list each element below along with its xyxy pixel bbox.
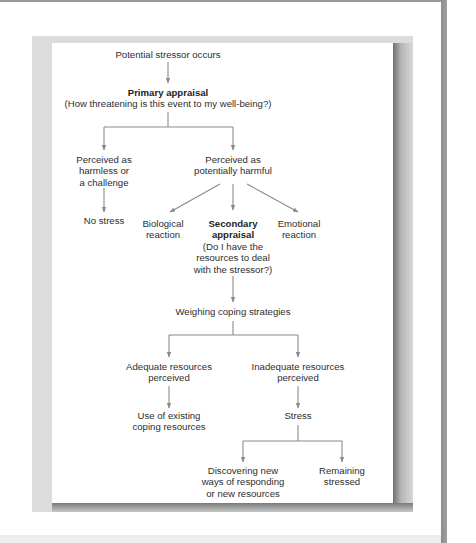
node-text: potentially harmful bbox=[178, 165, 288, 176]
node-text: a challenge bbox=[64, 177, 144, 188]
node-text: Weighing coping strategies bbox=[163, 306, 303, 317]
node-text: (Do I have the bbox=[183, 241, 283, 252]
node-text: perceived bbox=[238, 372, 358, 383]
node-text: coping resources bbox=[119, 421, 219, 432]
node-discovering-new-ways: Discovering new ways of responding or ne… bbox=[188, 465, 298, 499]
node-remaining-stressed: Remaining stressed bbox=[307, 465, 377, 488]
node-primary-appraisal: Primary appraisal (How threatening is th… bbox=[48, 87, 288, 110]
node-title-text: Secondary bbox=[208, 218, 257, 229]
node-text: perceived bbox=[114, 372, 224, 383]
arrow-to-biological bbox=[170, 184, 220, 212]
node-text: (How threatening is this event to my wel… bbox=[48, 98, 288, 109]
node-title: Primary appraisal bbox=[48, 87, 288, 98]
node-text: or new resources bbox=[188, 488, 298, 499]
node-text: Remaining bbox=[307, 465, 377, 476]
node-text: Emotional bbox=[264, 218, 334, 229]
node-text: harmless or bbox=[64, 165, 144, 176]
node-emotional-reaction: Emotional reaction bbox=[264, 218, 334, 241]
node-inadequate-resources: Inadequate resources perceived bbox=[238, 361, 358, 384]
node-title-text: appraisal bbox=[212, 229, 254, 240]
node-adequate-resources: Adequate resources perceived bbox=[114, 361, 224, 384]
node-text: ways of responding bbox=[188, 476, 298, 487]
node-text: Adequate resources bbox=[114, 361, 224, 372]
node-weighing-coping: Weighing coping strategies bbox=[163, 306, 303, 317]
node-perceived-harmless: Perceived as harmless or a challenge bbox=[64, 154, 144, 188]
node-text: Stress bbox=[268, 410, 328, 421]
node-text: Potential stressor occurs bbox=[108, 49, 228, 60]
node-text: Perceived as bbox=[178, 154, 288, 165]
node-text: resources to deal bbox=[183, 252, 283, 263]
node-text: Perceived as bbox=[64, 154, 144, 165]
node-potential-stressor: Potential stressor occurs bbox=[108, 49, 228, 60]
node-title-text: Primary appraisal bbox=[128, 87, 209, 98]
node-text: stressed bbox=[307, 476, 377, 487]
arrow-to-emotional bbox=[247, 184, 298, 212]
node-text: with the stressor?) bbox=[183, 264, 283, 275]
node-text: reaction bbox=[264, 229, 334, 240]
node-text: Inadequate resources bbox=[238, 361, 358, 372]
node-perceived-harmful: Perceived as potentially harmful bbox=[178, 154, 288, 177]
node-existing-coping: Use of existing coping resources bbox=[119, 410, 219, 433]
node-text: Use of existing bbox=[119, 410, 219, 421]
node-stress: Stress bbox=[268, 410, 328, 421]
node-text: Discovering new bbox=[188, 465, 298, 476]
